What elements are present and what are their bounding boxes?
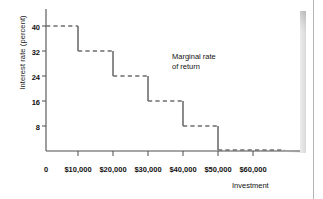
step-risers-solid: [78, 26, 218, 150]
step-treads-dashed: [46, 26, 285, 150]
figure-container: Interest rate (percent) 40 32 24 16 8 0 …: [0, 0, 323, 199]
x-axis-ticks: [78, 151, 253, 156]
chart-svg: [0, 0, 323, 199]
y-axis-ticks: [42, 26, 46, 126]
